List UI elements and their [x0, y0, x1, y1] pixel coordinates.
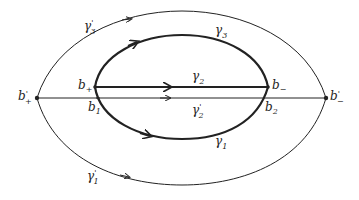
- label-b2: b2: [265, 100, 278, 116]
- point-b-minus-prime: [324, 96, 328, 100]
- point-b-plus-prime: [35, 96, 39, 100]
- gamma3-curve: [95, 35, 268, 87]
- point-b-plus: [93, 85, 97, 89]
- label-b-plus: b+: [78, 78, 92, 94]
- label-gamma2-prime: γ'2: [192, 102, 203, 120]
- gamma1-prime-curve: [37, 98, 326, 185]
- label-b-plus-prime: b'+: [18, 89, 32, 106]
- label-gamma3-prime: γ'3: [84, 18, 95, 36]
- contour-diagram: γ'3 γ3 γ2 γ'2 γ1 γ'1 b+ b− b1 b2 b'+ b'−: [0, 0, 359, 200]
- label-b1: b1: [88, 100, 101, 116]
- label-gamma1: γ1: [215, 134, 227, 151]
- label-gamma2: γ2: [192, 69, 204, 86]
- point-b-minus: [266, 85, 270, 89]
- label-b-minus-prime: b'−: [330, 89, 344, 106]
- label-gamma1-prime: γ'1: [87, 168, 98, 186]
- label-b-minus: b−: [272, 78, 286, 94]
- gamma1-curve: [95, 87, 268, 139]
- gamma3-prime-arrow-icon: [122, 19, 131, 20]
- label-gamma3: γ3: [215, 23, 227, 40]
